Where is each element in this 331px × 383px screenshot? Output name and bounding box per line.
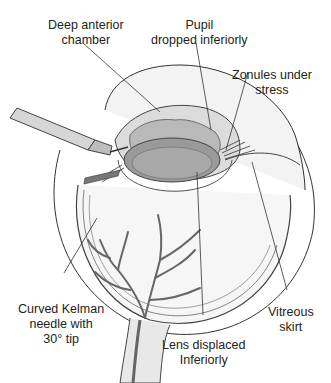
label-line: chamber <box>48 33 124 48</box>
label-pupil-dropped: Pupil dropped inferiorly <box>151 18 248 48</box>
label-line: 30° tip <box>18 332 104 347</box>
label-line: Vitreous <box>268 305 314 320</box>
label-line: stress <box>232 83 312 98</box>
label-line: Deep anterior <box>48 18 124 33</box>
label-line: Pupil <box>151 18 248 33</box>
label-line: needle with <box>18 317 104 332</box>
label-vitreous-skirt: Vitreous skirt <box>268 305 314 335</box>
label-deep-anterior-chamber: Deep anterior chamber <box>48 18 124 48</box>
label-line: Lens displaced <box>162 338 245 353</box>
label-line: dropped inferiorly <box>151 33 248 48</box>
label-line: skirt <box>268 320 314 335</box>
label-kelman-needle: Curved Kelman needle with 30° tip <box>18 302 104 347</box>
label-line: Curved Kelman <box>18 302 104 317</box>
label-line: Inferiorly <box>162 353 245 368</box>
label-lens-displaced: Lens displaced Inferiorly <box>162 338 245 368</box>
label-line: Zonules under <box>232 68 312 83</box>
label-zonules-stress: Zonules under stress <box>232 68 312 98</box>
